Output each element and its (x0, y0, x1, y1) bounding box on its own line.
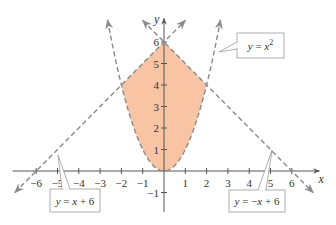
callout-pointer (219, 42, 237, 52)
callout-label-part: = − (239, 195, 257, 207)
x-axis-label: x (317, 172, 324, 186)
y-tick-label: 4 (154, 79, 160, 91)
x-tick-label: 6 (289, 177, 295, 189)
x-tick-label: −3 (94, 177, 106, 189)
x-tick-label: 1 (183, 177, 189, 189)
callout-parabola: y = x2 (219, 33, 284, 58)
callout-label: y = −x + 6 (234, 195, 280, 207)
callout-label-part: + 6 (262, 195, 280, 207)
x-tick-label: 4 (246, 177, 252, 189)
x-tick-label: −4 (73, 177, 85, 189)
callout-label: y = x + 6 (55, 195, 95, 207)
callout-label-part: 2 (269, 38, 273, 47)
y-axis-label: y (153, 12, 160, 26)
x-tick-label: 2 (204, 177, 210, 189)
callout-label-part: = (61, 195, 73, 207)
x-tick-label: 5 (268, 177, 274, 189)
x-tick-label: 3 (225, 177, 231, 189)
callout-label-part: = (253, 40, 265, 52)
figure: xy−6−5−4−3−2−1123456−1123456 y = x2y = x… (0, 0, 336, 225)
x-tick-label: −2 (116, 177, 128, 189)
y-tick-label: 5 (154, 58, 160, 70)
plot-canvas: xy−6−5−4−3−2−1123456−1123456 y = x2y = x… (0, 0, 336, 225)
y-tick-label: 3 (154, 101, 160, 113)
y-tick-label: 1 (154, 144, 160, 156)
y-tick-label: 6 (154, 36, 160, 48)
x-tick-label: −6 (30, 177, 42, 189)
callout-line-right: y = −x + 6 (229, 150, 285, 212)
y-tick-label: −1 (147, 187, 159, 199)
y-tick-label: 2 (154, 122, 160, 134)
callout-label-part: + 6 (77, 195, 95, 207)
